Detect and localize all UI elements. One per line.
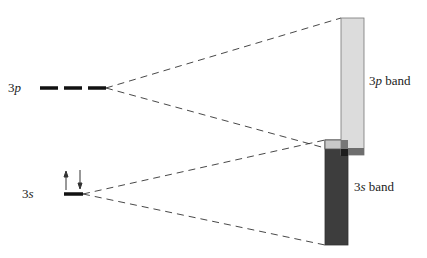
3p-band [341, 18, 364, 155]
3p-level-label: 3p [8, 80, 21, 96]
3p-band-label: 3p band [369, 73, 411, 89]
dashed-connectors [83, 18, 341, 245]
3s-level-label: 3s [22, 186, 34, 202]
band-overlap-top [341, 140, 348, 149]
spin-up-arrow-icon [64, 171, 68, 190]
band-formation-diagram: 3p 3s 3p band 3s band [0, 0, 427, 258]
3s-band-label: 3s band [354, 179, 394, 195]
diagram-graphics [0, 0, 427, 258]
spin-down-arrow-icon [78, 170, 82, 189]
